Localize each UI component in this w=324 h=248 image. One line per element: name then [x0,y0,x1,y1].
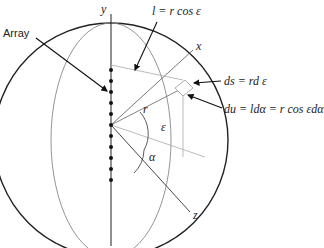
l-segment [111,65,183,80]
surface-patch [175,80,193,96]
array-arrow [36,38,107,91]
ds-arrow [194,81,221,83]
du-equation: du = ldα = r cos εdα [224,103,324,115]
x-axis-label: x [196,40,201,52]
ds-equation: ds = rd ε [224,75,267,87]
l-arrow [135,22,157,70]
z-axis-label: z [193,209,198,221]
l-equation: l = r cos ε [152,5,201,17]
y-axis-label: y [101,3,106,15]
array-label: Array [3,28,29,39]
r-label: r [143,103,148,115]
du-arrow [188,95,222,108]
epsilon-arc [140,112,148,150]
alpha-arc [134,150,144,173]
alpha-label: α [149,151,155,163]
epsilon-label: ε [161,121,166,133]
